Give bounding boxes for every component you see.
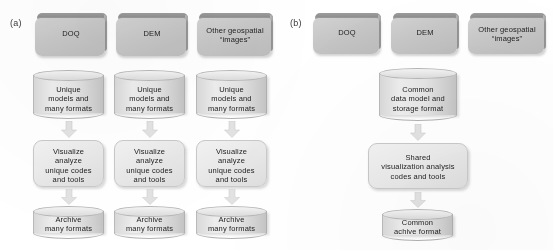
cylinder-shape [379,68,457,121]
cylinder-top-ellipse [196,206,267,217]
source-box-other-a[interactable]: Other geospatial “images” [197,13,273,56]
archive-cylinder-a2[interactable]: Archive many formats [114,206,185,239]
source-box-shape [116,13,188,56]
source-box-shape [35,13,107,56]
arrow-down-a1-store-to-process [61,121,77,138]
cylinder-body [379,73,457,115]
source-box-shape [197,13,273,56]
arrow-down-a2-store-to-process [142,121,158,138]
arrow-down-a3-process-to-archive [224,189,240,205]
process-box-face [196,140,267,187]
panel-label-a: (a) [10,18,22,28]
arrow-down-b-store-to-process [410,124,426,141]
cylinder-top-ellipse [114,70,185,81]
arrow-down-a2-process-to-archive [142,189,158,205]
source-box-front-face [468,18,544,54]
process-box-face [368,143,468,189]
source-box-front-face [35,18,105,56]
source-box-front-face [313,18,379,54]
cylinder-top-ellipse [33,206,104,217]
process-box-a2[interactable]: Visualize analyze unique codes and tools [114,140,185,187]
cylinder-top-ellipse [379,68,457,79]
figure-canvas: (a) DOQ Unique models and many formats V… [0,0,553,250]
source-box-front-face [197,18,271,56]
source-box-dem-b[interactable]: DEM [391,13,459,54]
archive-cylinder-a3[interactable]: Archive many formats [196,206,267,239]
cylinder-top-ellipse [382,209,453,220]
process-box-shape [196,140,267,187]
source-box-doq-a[interactable]: DOQ [35,13,107,56]
cylinder-shape [196,70,267,119]
source-box-shape [313,13,381,54]
cylinder-shape [382,209,453,241]
cylinder-shape [33,206,104,239]
arrow-down-a3-store-to-process [224,121,240,138]
process-box-a1[interactable]: Visualize analyze unique codes and tools [33,140,104,187]
cylinder-top-ellipse [33,70,104,81]
process-box-shape [368,143,468,189]
panel-label-b: (b) [290,18,302,28]
datastore-cylinder-a3[interactable]: Unique models and many formats [196,70,267,119]
datastore-cylinder-b[interactable]: Common data model and storage format [379,68,457,121]
source-box-front-face [116,18,186,56]
cylinder-shape [33,70,104,119]
cylinder-top-ellipse [196,70,267,81]
source-box-dem-a[interactable]: DEM [116,13,188,56]
archive-cylinder-a1[interactable]: Archive many formats [33,206,104,239]
source-box-other-b[interactable]: Other geospatial “images” [468,13,546,54]
cylinder-shape [196,206,267,239]
cylinder-shape [114,70,185,119]
process-box-face [33,140,104,187]
source-box-shape [468,13,546,54]
datastore-cylinder-a1[interactable]: Unique models and many formats [33,70,104,119]
source-box-front-face [391,18,457,54]
source-box-shape [391,13,459,54]
process-box-b[interactable]: Shared visualization analysis codes and … [368,143,468,189]
process-box-shape [33,140,104,187]
datastore-cylinder-a2[interactable]: Unique models and many formats [114,70,185,119]
archive-cylinder-b[interactable]: Common achive format [382,209,453,241]
process-box-a3[interactable]: Visualize analyze unique codes and tools [196,140,267,187]
arrow-down-a1-process-to-archive [61,189,77,205]
arrow-down-b-process-to-archive [410,192,426,208]
source-box-doq-b[interactable]: DOQ [313,13,381,54]
cylinder-top-ellipse [114,206,185,217]
process-box-shape [114,140,185,187]
process-box-face [114,140,185,187]
cylinder-shape [114,206,185,239]
